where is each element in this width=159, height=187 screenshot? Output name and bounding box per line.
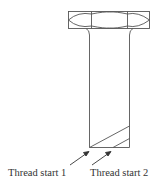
bolt-shank	[86, 29, 133, 148]
thread-line-1	[90, 126, 130, 148]
thread-line-2	[113, 139, 130, 148]
label-thread-start-2: Thread start 2	[90, 168, 148, 179]
head-chamfer-bottom	[69, 20, 150, 28]
head-chamfer-top	[69, 12, 150, 20]
arrow-thread-start-1	[70, 153, 87, 165]
arrow-thread-start-2	[92, 153, 109, 165]
label-thread-start-1: Thread start 1	[8, 168, 66, 179]
bolt-diagram	[0, 0, 159, 187]
